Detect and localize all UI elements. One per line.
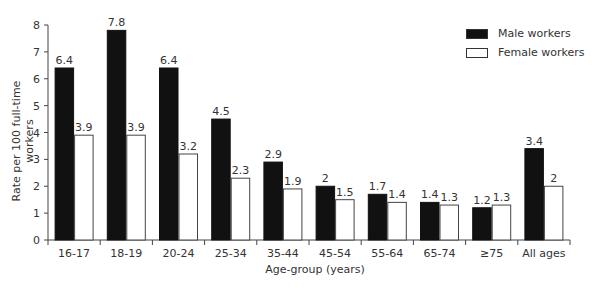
bar-male [107,30,126,240]
x-tick-label: 18-19 [110,247,142,260]
x-axis-label: Age-group (years) [250,263,380,276]
bar-male [264,162,283,240]
x-tick-label: ≥75 [480,247,503,260]
bar-value-label: 2 [550,172,557,185]
bar-value-label: 1.3 [493,191,511,204]
bar-value-label: 3.9 [75,121,93,134]
legend-item-female: Female workers [466,43,585,62]
x-tick-label: 25-34 [215,247,247,260]
y-tick-label: 0 [33,234,40,247]
bar-male [473,208,492,240]
x-tick-label: 45-54 [319,247,351,260]
y-tick-label: 7 [33,46,40,59]
bar-value-label: 1.3 [441,191,459,204]
bar-female [75,135,94,240]
bar-value-label: 2.3 [232,164,250,177]
bar-value-label: 2.9 [264,148,282,161]
x-tick-label: 16-17 [58,247,90,260]
bar-female [231,178,250,240]
bar-male [421,202,440,240]
bar-female [440,205,459,240]
bar-value-label: 3.9 [127,121,145,134]
bar-male [55,68,74,240]
male-swatch-icon [466,29,488,39]
x-tick-label: 35-44 [267,247,299,260]
legend-item-male: Male workers [466,24,585,43]
bar-female [492,205,511,240]
bar-value-label: 3.2 [180,140,198,153]
y-axis-label: Rate per 100 full-time workers [10,76,36,206]
bar-value-label: 1.4 [388,188,406,201]
bar-female [179,154,198,240]
bar-value-label: 1.9 [284,175,302,188]
bar-male [212,119,231,240]
bar-value-label: 6.4 [160,54,178,67]
bar-male [160,68,179,240]
bar-value-label: 2 [322,172,329,185]
bar-value-label: 1.2 [473,194,491,207]
legend-label-male: Male workers [498,27,571,40]
bar-male [525,149,544,240]
bar-value-label: 1.4 [421,188,439,201]
y-tick-label: 1 [33,207,40,220]
x-tick-label: 20-24 [163,247,195,260]
bar-male [316,186,335,240]
bar-value-label: 7.8 [108,16,126,29]
legend-label-female: Female workers [498,46,585,59]
bar-female [544,186,563,240]
bar-value-label: 1.7 [369,180,387,193]
bar-female [388,202,407,240]
y-tick-label: 8 [33,19,40,32]
x-tick-label: 55-64 [371,247,403,260]
bar-male [368,194,387,240]
female-swatch-icon [466,48,488,58]
bar-value-label: 3.4 [525,135,543,148]
legend: Male workers Female workers [466,24,585,62]
x-tick-label: 65-74 [424,247,456,260]
bar-female [127,135,146,240]
x-tick-label: All ages [522,247,566,260]
bar-female [283,189,302,240]
bar-value-label: 4.5 [212,105,230,118]
bar-value-label: 6.4 [56,54,74,67]
bar-female [336,200,355,240]
bar-value-label: 1.5 [336,186,354,199]
